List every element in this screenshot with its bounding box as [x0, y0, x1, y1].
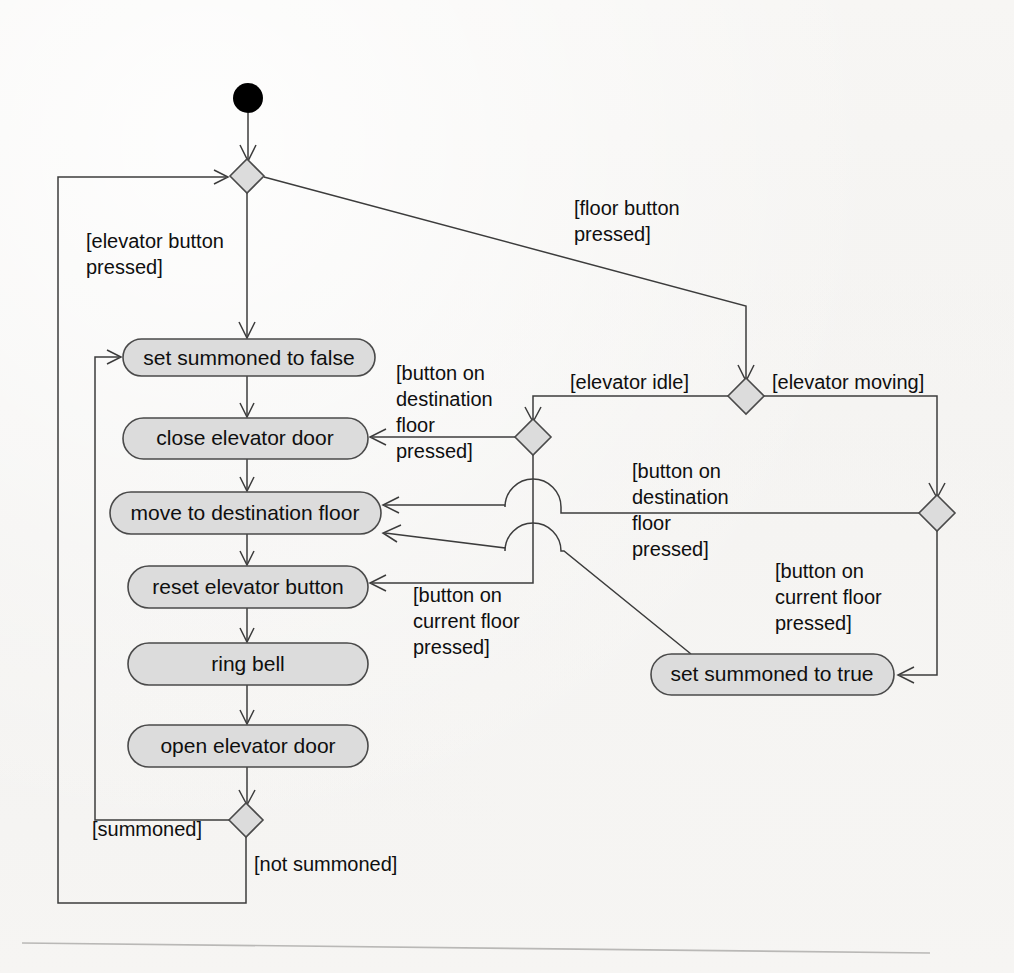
- decision-summoned: [229, 803, 263, 837]
- decision-idle-branch: [515, 419, 551, 455]
- guard-line: pressed]: [396, 440, 473, 462]
- guard-line: pressed]: [413, 636, 490, 658]
- guard-button-current-floor-right: [button on current floor pressed]: [775, 560, 882, 634]
- flow-idle-current-to-reset: [372, 455, 533, 583]
- guard-button-current-floor-left: [button on current floor pressed]: [413, 584, 520, 658]
- guard-line: [not summoned]: [254, 853, 397, 875]
- activity-open-elevator-door: open elevator door: [128, 725, 368, 767]
- activity-set-summoned-to-false: set summoned to false: [123, 339, 375, 376]
- guard-line: pressed]: [86, 256, 163, 278]
- guard-line: floor: [632, 512, 671, 534]
- activity-set-summoned-to-true: set summoned to true: [651, 654, 894, 695]
- activity-label: set summoned to true: [670, 662, 873, 685]
- guard-labels: [elevator button pressed] [floor button …: [86, 197, 924, 875]
- decision-moving-branch: [919, 495, 955, 531]
- guard-line: [floor button: [574, 197, 680, 219]
- guard-line: destination: [632, 486, 729, 508]
- guard-not-summoned: [not summoned]: [254, 853, 397, 875]
- guard-elevator-idle: [elevator idle]: [570, 371, 689, 393]
- guard-line: [summoned]: [92, 818, 202, 840]
- guard-line: [button on: [413, 584, 502, 606]
- guard-elevator-button-pressed: [elevator button pressed]: [86, 230, 224, 278]
- page-rule-line: [22, 943, 930, 953]
- flow-not-summoned-loop: [58, 177, 246, 903]
- guard-line: pressed]: [632, 538, 709, 560]
- guard-line: pressed]: [574, 223, 651, 245]
- activity-reset-elevator-button: reset elevator button: [128, 566, 368, 608]
- activity-label: reset elevator button: [152, 575, 343, 598]
- activity-label: move to destination floor: [131, 501, 360, 524]
- activity-label: ring bell: [211, 652, 285, 675]
- diagram-page: set summoned to false close elevator doo…: [0, 0, 1014, 973]
- guard-summoned: [summoned]: [92, 818, 202, 840]
- flow-moving-to-branch: [764, 396, 937, 496]
- guard-line: [elevator button: [86, 230, 224, 252]
- start-node: [233, 83, 263, 113]
- activity-move-to-destination-floor: move to destination floor: [110, 492, 381, 534]
- guard-line: destination: [396, 388, 493, 410]
- activity-label: set summoned to false: [143, 346, 354, 369]
- activity-diagram-canvas: set summoned to false close elevator doo…: [0, 0, 1014, 973]
- decision-entry: [230, 159, 264, 193]
- guard-line: [button on: [632, 460, 721, 482]
- activity-label: open elevator door: [160, 734, 335, 757]
- guard-line: [button on: [396, 362, 485, 384]
- guard-floor-button-pressed: [floor button pressed]: [574, 197, 680, 245]
- guard-line: pressed]: [775, 612, 852, 634]
- decision-elevator-state: [728, 378, 764, 414]
- activity-nodes: set summoned to false close elevator doo…: [110, 339, 894, 767]
- flow-moving-current-to-set-true: [900, 531, 937, 675]
- guard-line: [elevator idle]: [570, 371, 689, 393]
- guard-line: current floor: [775, 586, 882, 608]
- activity-close-elevator-door: close elevator door: [123, 418, 368, 459]
- guard-button-destination-floor-left: [button on destination floor pressed]: [396, 362, 493, 462]
- guard-elevator-moving: [elevator moving]: [772, 371, 924, 393]
- activity-ring-bell: ring bell: [128, 643, 368, 685]
- flow-idle-to-branch: [533, 396, 728, 420]
- activity-label: close elevator door: [156, 426, 333, 449]
- guard-button-destination-floor-right: [button on destination floor pressed]: [632, 460, 729, 560]
- guard-line: [button on: [775, 560, 864, 582]
- guard-line: floor: [396, 414, 435, 436]
- guard-line: current floor: [413, 610, 520, 632]
- guard-line: [elevator moving]: [772, 371, 924, 393]
